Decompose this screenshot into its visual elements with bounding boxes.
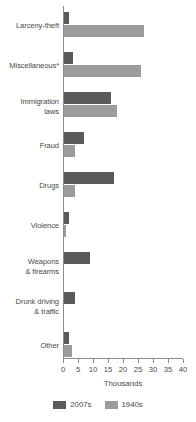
legend-label: 2007s bbox=[70, 400, 91, 409]
bar-1940s bbox=[63, 105, 117, 117]
bar-1940s bbox=[63, 25, 144, 37]
bars-wrapper bbox=[63, 246, 196, 286]
category-label: Miscellaneous* bbox=[0, 61, 59, 71]
bar-2007s bbox=[63, 52, 73, 64]
legend-swatch-icon bbox=[105, 401, 118, 409]
bar-2007s bbox=[63, 132, 84, 144]
bar-2007s bbox=[63, 252, 90, 264]
legend-label: 1940s bbox=[122, 400, 143, 409]
bars-wrapper bbox=[63, 6, 196, 46]
bars-wrapper bbox=[63, 166, 196, 206]
bar-group-row: Drugs bbox=[0, 166, 196, 206]
bar-group-row: Larceny-theft bbox=[0, 6, 196, 46]
chart-legend: 2007s1940s bbox=[0, 400, 196, 409]
bar-group-row: Other bbox=[0, 326, 196, 366]
category-label: Violence bbox=[0, 221, 59, 231]
bar-group-row: Weapons & firearms bbox=[0, 246, 196, 286]
category-label: Larceny-theft bbox=[0, 21, 59, 31]
bar-2007s bbox=[63, 172, 114, 184]
bars-wrapper bbox=[63, 126, 196, 166]
category-label: Weapons & firearms bbox=[0, 257, 59, 276]
x-axis-tick bbox=[153, 359, 154, 363]
bar-group-row: Fraud bbox=[0, 126, 196, 166]
plot-area: Larceny-theftMiscellaneous*Immigration l… bbox=[0, 6, 196, 358]
bar-1940s bbox=[63, 65, 141, 77]
bar-group-row: Drunk driving & traffic bbox=[0, 286, 196, 326]
bar-group-row: Miscellaneous* bbox=[0, 46, 196, 86]
x-axis-title: Thousands bbox=[63, 379, 183, 388]
x-axis-tick-label: 40 bbox=[173, 365, 193, 374]
bars-wrapper bbox=[63, 46, 196, 86]
x-axis-tick bbox=[168, 359, 169, 363]
x-axis-tick bbox=[138, 359, 139, 363]
legend-swatch-icon bbox=[53, 401, 66, 409]
bar-group-row: Violence bbox=[0, 206, 196, 246]
legend-item[interactable]: 2007s bbox=[53, 400, 91, 409]
bar-2007s bbox=[63, 292, 75, 304]
bar-1940s bbox=[63, 145, 75, 157]
bars-wrapper bbox=[63, 326, 196, 366]
category-label: Other bbox=[0, 341, 59, 351]
category-label: Fraud bbox=[0, 141, 59, 151]
y-axis-line bbox=[63, 6, 64, 358]
legend-item[interactable]: 1940s bbox=[105, 400, 143, 409]
x-axis-tick bbox=[78, 359, 79, 363]
bars-wrapper bbox=[63, 206, 196, 246]
bar-1940s bbox=[63, 185, 75, 197]
category-label: Drunk driving & traffic bbox=[0, 297, 59, 316]
bar-rows-container: Larceny-theftMiscellaneous*Immigration l… bbox=[0, 6, 196, 358]
x-axis-tick bbox=[123, 359, 124, 363]
bars-wrapper bbox=[63, 86, 196, 126]
category-label: Drugs bbox=[0, 181, 59, 191]
bar-1940s bbox=[63, 345, 72, 357]
x-axis-tick bbox=[108, 359, 109, 363]
category-label: Immigration laws bbox=[0, 97, 59, 116]
x-axis-tick bbox=[183, 359, 184, 363]
bar-2007s bbox=[63, 92, 111, 104]
x-axis-tick bbox=[63, 359, 64, 363]
bar-group-row: Immigration laws bbox=[0, 86, 196, 126]
bars-wrapper bbox=[63, 286, 196, 326]
x-axis-tick bbox=[93, 359, 94, 363]
horizontal-bar-chart: Larceny-theftMiscellaneous*Immigration l… bbox=[0, 0, 196, 422]
